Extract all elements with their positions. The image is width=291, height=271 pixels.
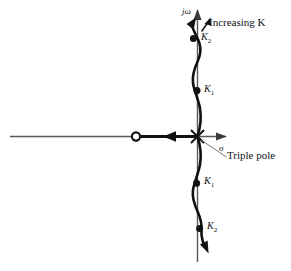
gain-label-k2-upper-sub: 2 (208, 37, 212, 45)
root-locus-figure: jω σ Increasing K Triple pole K2 K1 K1 K… (0, 0, 291, 271)
gain-label-k2-lower-letter: K (207, 220, 214, 231)
real-axis-direction-arrow (163, 131, 176, 141)
gain-label-k1-upper-sub: 1 (211, 89, 215, 97)
gain-label-k1-lower-letter: K (204, 175, 211, 186)
imaginary-axis-label: jω (182, 7, 191, 16)
gain-label-k2-lower: K2 (207, 221, 217, 234)
upper-branch-direction-arrow (187, 18, 197, 30)
real-axis-locus-branch (141, 131, 197, 141)
increasing-k-text: Increasing K (209, 16, 266, 28)
upper-complex-branch (187, 18, 201, 137)
gain-point-k1-lower (193, 180, 200, 187)
lower-branch-direction-arrow (200, 240, 209, 253)
gain-label-k2-upper-letter: K (201, 31, 208, 42)
gain-label-k1-lower-sub: 1 (211, 181, 215, 189)
root-locus-canvas (0, 0, 291, 271)
upper-branch-curve (192, 26, 201, 137)
gain-label-k2-upper: K2 (201, 32, 211, 45)
lower-complex-branch (193, 137, 209, 254)
gain-label-k1-lower: K1 (204, 176, 214, 189)
real-axis-label: σ (219, 144, 223, 153)
gain-point-k1-upper (194, 87, 201, 94)
open-loop-zero-marker (132, 132, 140, 140)
gain-label-k1-upper-letter: K (204, 83, 211, 94)
gain-label-k2-lower-sub: 2 (214, 226, 218, 234)
gain-point-k2-lower (196, 225, 203, 232)
increasing-k-annotation: Increasing K (209, 17, 266, 28)
triple-pole-annotation: Triple pole (227, 150, 275, 161)
gain-label-k1-upper: K1 (204, 84, 214, 97)
gain-point-k2-upper (190, 35, 197, 42)
